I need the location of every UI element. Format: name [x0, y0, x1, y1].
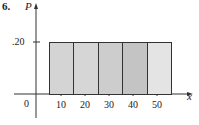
x-tick-label: 20: [75, 99, 95, 110]
bar: [147, 42, 172, 95]
x-tick-label: 50: [147, 99, 167, 110]
bar: [73, 42, 98, 95]
x-tick-label: 30: [99, 99, 119, 110]
bar: [98, 42, 123, 95]
bar: [122, 42, 147, 95]
x-tick-label: 40: [123, 99, 143, 110]
x-tick-label: 10: [51, 99, 71, 110]
bar: [49, 42, 74, 95]
